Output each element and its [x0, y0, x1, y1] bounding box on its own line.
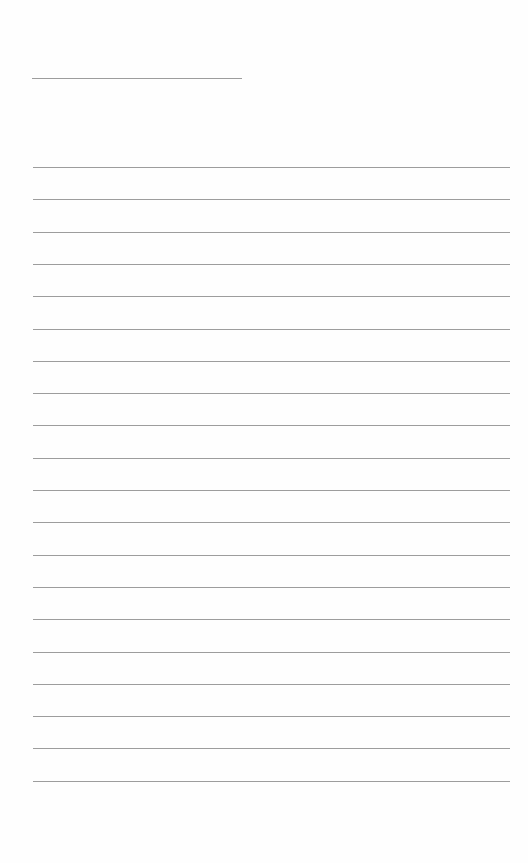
writing-line: [33, 716, 510, 717]
writing-line: [33, 522, 510, 523]
writing-line: [33, 296, 510, 297]
title-line: [32, 78, 242, 79]
writing-line: [33, 425, 510, 426]
lined-paper-page: [0, 0, 528, 863]
writing-line: [33, 199, 510, 200]
writing-line: [33, 393, 510, 394]
writing-line: [33, 619, 510, 620]
writing-line: [33, 587, 510, 588]
writing-line: [33, 555, 510, 556]
writing-line: [33, 361, 510, 362]
writing-line: [33, 167, 510, 168]
writing-line: [33, 652, 510, 653]
writing-line: [33, 232, 510, 233]
writing-line: [33, 264, 510, 265]
writing-line: [33, 329, 510, 330]
writing-line: [33, 781, 510, 782]
writing-line: [33, 684, 510, 685]
writing-line: [33, 458, 510, 459]
writing-line: [33, 490, 510, 491]
writing-line: [33, 748, 510, 749]
